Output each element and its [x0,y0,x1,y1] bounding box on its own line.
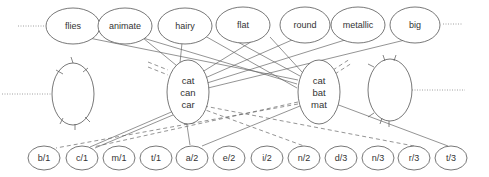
letter-node-n2: n/2 [288,146,320,170]
svg-text:cat: cat [313,75,326,86]
svg-text:hairy: hairy [175,21,195,31]
svg-text:round: round [293,20,316,30]
feature-node-big: big [390,7,440,43]
letter-node-m1: m/1 [103,146,135,170]
feature-node-round: round [280,7,330,43]
letter-node-t1: t/1 [140,146,172,170]
svg-text:e/2: e/2 [223,153,236,163]
side-node-left [52,57,94,130]
svg-text:b/1: b/1 [38,153,51,163]
hub-node-cat-can-car: cat can car [167,60,209,124]
svg-text:big: big [409,20,421,30]
feature-node-hairy: hairy [158,8,212,44]
svg-text:car: car [181,99,194,110]
svg-text:t/1: t/1 [151,153,161,163]
svg-text:bat: bat [312,87,326,98]
side-node-right [368,55,412,127]
hub-node-cat-bat-mat: cat bat mat [298,60,340,124]
feature-node-flat: flat [216,7,270,43]
feature-nodes: flies animate hairy flat round metallic … [46,7,440,44]
svg-text:m/1: m/1 [111,153,126,163]
letter-nodes: b/1 c/1 m/1 t/1 a/2 e/2 i/2 n/2 d/3 n/3 … [28,146,467,170]
svg-text:c/1: c/1 [76,153,88,163]
svg-text:n/2: n/2 [298,153,311,163]
svg-text:animate: animate [109,21,141,31]
svg-text:can: can [180,87,195,98]
svg-text:a/2: a/2 [186,153,199,163]
letter-node-r3: r/3 [398,146,430,170]
letter-node-n3: n/3 [362,146,394,170]
svg-text:cat: cat [182,75,195,86]
letter-node-b1: b/1 [28,146,60,170]
letter-node-d3: d/3 [325,146,357,170]
letter-node-i2: i/2 [251,146,283,170]
letter-node-t3: t/3 [435,146,467,170]
svg-text:r/3: r/3 [409,153,420,163]
svg-text:flies: flies [65,21,82,31]
svg-text:d/3: d/3 [335,153,348,163]
letter-node-c1: c/1 [66,146,98,170]
feature-node-metallic: metallic [331,7,385,43]
word-network-diagram: flies animate hairy flat round metallic … [0,0,489,177]
feature-node-flies: flies [46,8,100,44]
letter-node-a2: a/2 [176,146,208,170]
letter-node-e2: e/2 [213,146,245,170]
svg-text:i/2: i/2 [262,153,272,163]
svg-text:metallic: metallic [343,20,374,30]
feature-node-animate: animate [98,8,152,44]
svg-text:mat: mat [311,99,327,110]
svg-text:n/3: n/3 [372,153,385,163]
svg-text:t/3: t/3 [446,153,456,163]
svg-text:flat: flat [237,20,250,30]
